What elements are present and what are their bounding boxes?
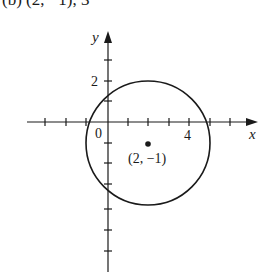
x-axis-label: x	[248, 126, 256, 142]
y-tick-label-2: 2	[91, 74, 98, 89]
x-axis	[27, 118, 252, 126]
y-axis-arrow-icon	[104, 31, 112, 43]
x-tick-label-4: 4	[184, 128, 191, 143]
center-label: (2, −1)	[128, 151, 167, 167]
center-point	[145, 141, 151, 147]
origin-label: 0	[95, 126, 102, 141]
y-axis	[104, 38, 112, 272]
circle-diagram: (b) (2, −1), 3 y x 0 4 2 (2, −1)	[0, 0, 276, 278]
header-text: (b) (2, −1), 3	[2, 0, 89, 9]
y-axis-label: y	[90, 29, 99, 45]
x-axis-arrow-icon	[246, 118, 258, 126]
